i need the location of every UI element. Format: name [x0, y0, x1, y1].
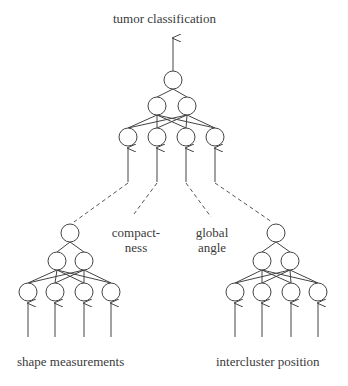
compactness-line1: compact- [104, 225, 168, 240]
top-input-node [119, 128, 137, 146]
output-label: tumor classification [113, 11, 216, 26]
top-input-node [148, 128, 166, 146]
compactness-line2: ness [104, 240, 168, 255]
compactness-label: compact- ness [104, 225, 168, 255]
top-input-node [206, 128, 224, 146]
top-output-node [164, 71, 182, 89]
intercluster-position-label: intercluster position [216, 354, 320, 369]
neural-network-diagram [0, 0, 348, 386]
top-hidden-node [148, 97, 166, 115]
top-hidden-node [178, 97, 196, 115]
top-network [119, 38, 224, 182]
global-angle-label: global angle [186, 225, 238, 255]
top-input-node [177, 128, 195, 146]
dashed-connectors [74, 183, 272, 222]
intercluster-network [226, 224, 327, 337]
global-angle-line2: angle [186, 240, 238, 255]
global-angle-line1: global [186, 225, 238, 240]
shape-measurements-label: shape measurements [17, 354, 124, 369]
